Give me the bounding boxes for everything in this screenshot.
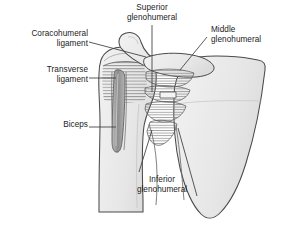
label-transverse-line1: Transverse [4,65,88,75]
label-superior-line2: glenohumeral [114,13,190,23]
label-transverse-ligament: Transverse ligament [4,65,88,85]
label-middle-glenohumeral: Middle glenohumeral [211,25,281,45]
label-transverse-line2: ligament [4,75,88,85]
label-middle-line1: Middle [211,25,281,35]
label-inferior-glenohumeral: Inferior glenohumeral [124,175,200,195]
label-superior-glenohumeral: Superior glenohumeral [114,3,190,23]
label-coracohumeral-ligament: Coracohumeral ligament [4,29,88,49]
label-coracohumeral-line2: ligament [4,39,88,49]
label-coracohumeral-line1: Coracohumeral [4,29,88,39]
label-superior-line1: Superior [114,3,190,13]
label-inferior-line1: Inferior [124,175,200,185]
label-biceps-line1: Biceps [34,120,88,130]
label-inferior-line2: glenohumeral [124,185,200,195]
label-biceps: Biceps [34,120,88,130]
shoulder-ligament-diagram: Coracohumeral ligament Transverse ligame… [0,0,282,235]
label-middle-line2: glenohumeral [211,35,281,45]
